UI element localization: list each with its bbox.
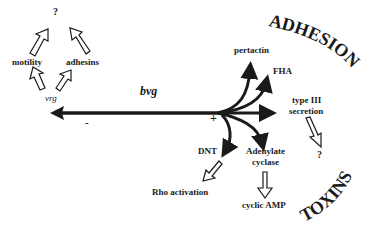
vrg-unknown-label: ?	[53, 7, 58, 17]
adhesins-label: adhesins	[66, 57, 99, 67]
rho-activation-label: Rho activation	[152, 187, 208, 197]
bvg-label: bvg	[140, 86, 157, 96]
bvg-main-arrow	[50, 106, 222, 120]
branch-arrows	[218, 70, 268, 150]
type3-label-line2: secretion	[289, 106, 323, 116]
adenylate-cyclase-line2: cyclase	[252, 157, 279, 167]
dnt-label: DNT	[198, 146, 217, 156]
pertactin-label: pertactin	[234, 45, 269, 55]
motility-label: motility	[12, 57, 42, 67]
plus-sign: +	[210, 113, 217, 123]
adhesion-title: ADHESION	[267, 10, 364, 71]
diagram-canvas: ADHESION TOXINS	[0, 0, 369, 232]
vrg-label: vrg	[45, 93, 57, 103]
fha-label: FHA	[273, 66, 292, 76]
type3-unknown-label: ?	[317, 150, 322, 160]
adenylate-cyclase-line1: Adenylate	[246, 146, 285, 156]
cyclic-amp-label: cyclic AMP	[242, 200, 286, 210]
type3-label-line1: type III	[292, 95, 321, 105]
minus-sign: -	[85, 117, 89, 127]
toxins-title: TOXINS	[297, 168, 357, 226]
